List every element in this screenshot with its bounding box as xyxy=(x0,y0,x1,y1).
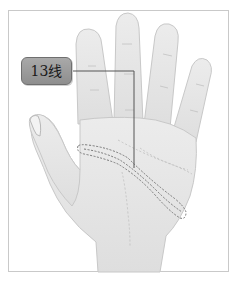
index-finger xyxy=(76,29,113,124)
middle-finger xyxy=(114,13,143,122)
ring-finger xyxy=(144,24,178,128)
line-label: 13线 xyxy=(21,57,72,85)
hand-illustration xyxy=(0,0,241,284)
